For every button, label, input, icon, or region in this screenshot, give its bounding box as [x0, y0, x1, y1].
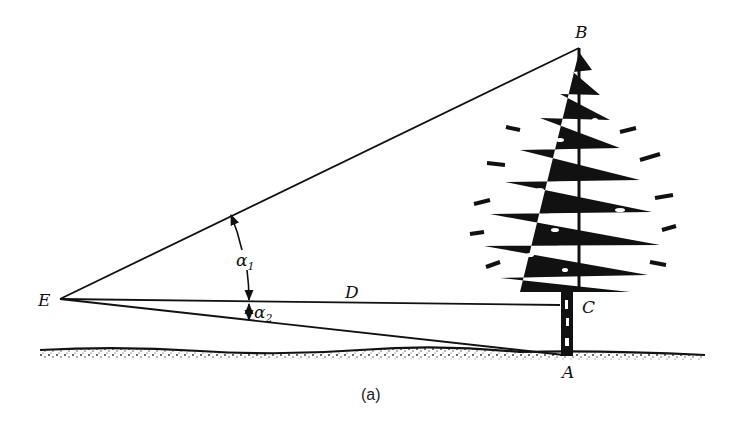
- distance-label-D: D: [344, 282, 359, 302]
- line-EC: [60, 299, 560, 305]
- angle-alpha1-arc-upper: [231, 215, 242, 250]
- line-EB: [60, 48, 579, 299]
- line-EA: [60, 299, 564, 355]
- tree-height-diagram: E B C A D α1 α2 (a): [0, 0, 746, 431]
- angle-label-alpha1: α1: [236, 250, 254, 273]
- point-label-C: C: [582, 297, 595, 317]
- ground: [40, 347, 705, 360]
- point-label-E: E: [37, 290, 51, 310]
- point-label-A: A: [560, 362, 574, 382]
- point-label-B: B: [574, 22, 588, 42]
- angle-alpha1-arc-lower: [247, 270, 249, 300]
- angle-label-alpha2: α2: [254, 302, 272, 325]
- figure-caption: (a): [361, 386, 381, 403]
- tree-icon: [470, 48, 676, 356]
